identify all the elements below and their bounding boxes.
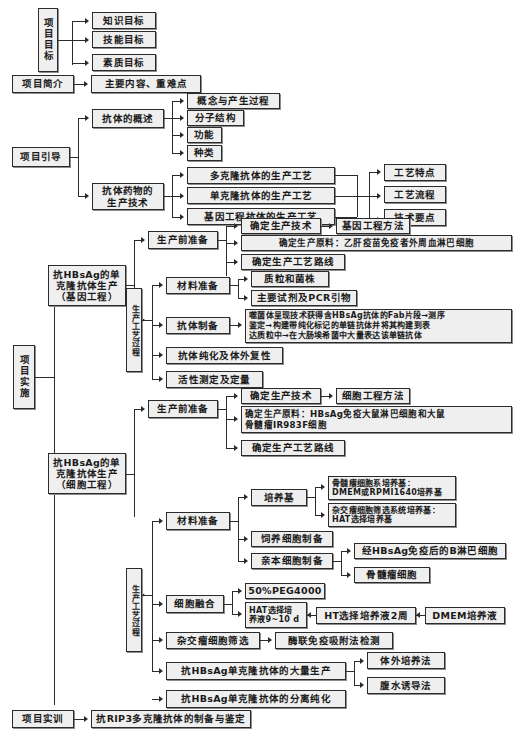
node-project-guide[interactable]: 项目引导 [12,147,70,167]
node-ce-process-label[interactable]: 生产工艺过程 [126,568,142,652]
node-ge-purification[interactable]: 抗体纯化及体外复性 [166,347,283,364]
node-ce-medium[interactable]: 培养基 [251,489,307,506]
node-ce-isolation-purification[interactable]: 抗HBsAg单克隆抗体的分离纯化 [166,690,346,708]
node-ov-function[interactable]: 功能 [187,127,222,143]
node-ge-reagents[interactable]: 主要试剂及PCR引物 [251,290,357,306]
node-goal-knowledge[interactable]: 知识目标 [92,12,156,29]
node-ce-elisa[interactable]: 酶联免疫吸附法检测 [275,632,393,649]
node-ce-feeder-cells[interactable]: 饲养细胞制备 [251,531,333,547]
node-tech-feature[interactable]: 工艺特点 [384,164,446,181]
node-ce-dmem-medium[interactable]: DMEM培养液 [425,607,505,624]
node-ce-medium-hybridoma[interactable]: 杂交瘤细胞筛选系统培养基： HAT选择培养基 [328,503,456,527]
node-ge-material-prep[interactable]: 材料准备 [166,277,230,294]
node-ov-types[interactable]: 种类 [187,145,222,161]
node-ce-invitro-culture[interactable]: 体外培养法 [367,652,445,669]
node-ce-determine-tech[interactable]: 确定生产技术 [241,388,321,404]
node-ge-raw-material[interactable]: 确定生产原料：乙肝疫苗免疫者外周血淋巴细胞 [241,235,512,251]
node-ce-b-lymphocyte[interactable]: 经HBsAg免疫后的B淋巴细胞 [354,543,506,559]
node-ce-ht-medium[interactable]: HT选择培养液2周 [316,607,416,624]
node-ce-hat-medium[interactable]: HAT选择培 养液9~10 d [245,602,307,628]
node-ce-ascites-induction[interactable]: 腹水诱导法 [367,677,445,694]
node-ge-pre-prep[interactable]: 生产前准备 [148,231,218,249]
diagram-canvas: 项目目标 知识目标 技能目标 素质目标 项目简介 主要内容、重难点 项目引导 抗… [0,0,520,731]
node-ce-mass-production[interactable]: 抗HBsAg单克隆抗体的大量生产 [166,662,346,680]
node-project-goal[interactable]: 项目目标 [38,8,58,72]
node-ge-antibody-prep[interactable]: 抗体制备 [166,317,230,334]
node-goal-quality[interactable]: 素质目标 [92,54,156,71]
node-ge-activity-assay[interactable]: 活性测定及定量 [166,371,263,388]
node-ce-myeloma-cell[interactable]: 骨髓瘤细胞 [354,567,430,583]
node-ge-plasmid[interactable]: 质粒和菌株 [251,271,329,287]
node-gene-engineering[interactable]: 抗HBsAg的单 克隆抗体生产 （基因工程） [48,265,126,306]
node-ov-structure[interactable]: 分子结构 [187,110,244,126]
node-ce-material-prep[interactable]: 材料准备 [166,512,230,530]
node-ce-hybridoma-screen[interactable]: 杂交瘤细胞筛选 [166,632,260,649]
node-ce-cell-method[interactable]: 细胞工程方法 [336,388,410,404]
node-ge-process-label[interactable]: 生产工艺过程 [126,288,142,372]
node-ge-process-route[interactable]: 确定生产工艺路线 [241,254,345,270]
node-ge-gene-method[interactable]: 基因工程方法 [336,218,410,234]
node-ce-medium-myeloma[interactable]: 骨髓瘤细胞系培养基： DMEM或RPMI1640培养基 [328,476,456,500]
node-ce-cell-fusion[interactable]: 细胞融合 [166,595,224,613]
node-training-item[interactable]: 抗RIP3多克隆抗体的制备与鉴定 [91,710,251,728]
node-ge-determine-tech[interactable]: 确定生产技术 [241,218,321,234]
node-ce-raw-material[interactable]: 确定生产原料：HBsAg免疫大鼠淋巴细胞和大鼠 骨髓瘤IR983F细胞 [241,406,512,433]
node-ce-parent-cells[interactable]: 亲本细胞制备 [251,553,333,569]
node-antibody-drug-tech[interactable]: 抗体药物的 生产技术 [92,183,164,210]
node-ce-peg[interactable]: 50%PEG4000 [245,583,325,599]
node-tech-flow[interactable]: 工艺流程 [384,186,446,203]
node-tech-poly[interactable]: 多克隆抗体的生产工艺 [187,167,335,184]
node-ov-concept[interactable]: 概念与产生过程 [187,93,280,109]
node-tech-mono[interactable]: 单克隆抗体的生产工艺 [187,187,335,204]
node-project-intro[interactable]: 项目简介 [12,75,74,93]
node-project-implementation[interactable]: 项目实施 [13,345,35,409]
node-ce-pre-prep[interactable]: 生产前准备 [148,400,218,418]
node-antibody-overview[interactable]: 抗体的概述 [92,109,164,128]
node-goal-skill[interactable]: 技能目标 [92,31,156,48]
node-cell-engineering[interactable]: 抗HBsAg的单 克隆抗体生产 （细胞工程） [48,453,126,494]
node-ge-antibody-prep-detail[interactable]: 噬菌体呈现技术获得含HBsAg抗体的Fab片段→测序 鉴定→构建带纯化标记的单链… [245,309,512,343]
node-ce-process-route[interactable]: 确定生产工艺路线 [241,440,345,456]
node-project-training[interactable]: 项目实训 [12,710,74,728]
node-intro-main[interactable]: 主要内容、重难点 [91,75,201,93]
